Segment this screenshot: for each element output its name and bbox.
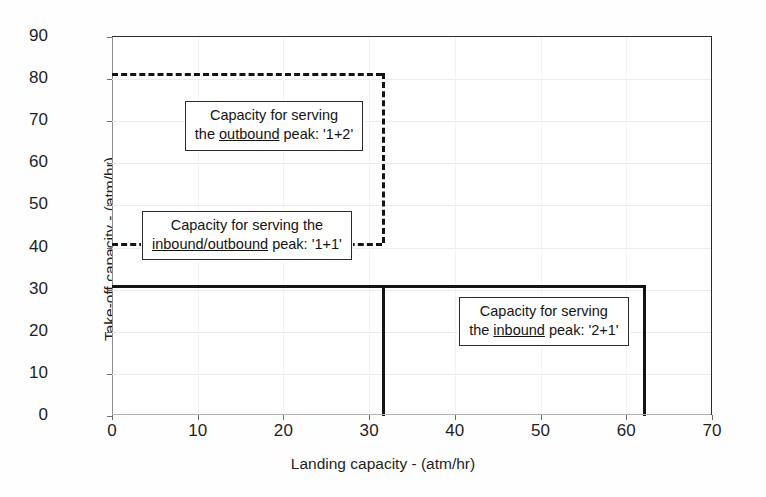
x-tick-mark <box>541 415 542 420</box>
gridline-horizontal <box>112 79 711 80</box>
gridline-horizontal <box>112 290 711 291</box>
annotation-line-1: Capacity for serving <box>469 302 618 321</box>
x-tick-label: 40 <box>425 421 485 441</box>
y-tick-label: 90 <box>0 26 48 46</box>
x-tick-label: 50 <box>511 421 571 441</box>
y-tick-label: 20 <box>0 321 48 341</box>
x-tick-mark <box>112 415 113 420</box>
annotation-inbound: Capacity for servingthe inbound peak: '2… <box>459 297 628 346</box>
y-tick-mark <box>107 332 112 333</box>
x-tick-label: 60 <box>596 421 656 441</box>
x-tick-mark <box>626 415 627 420</box>
x-tick-label: 0 <box>82 421 142 441</box>
gridline-vertical <box>369 37 370 415</box>
gridline-horizontal <box>112 163 711 164</box>
gridline-vertical <box>455 37 456 415</box>
annotation-line-2: the outbound peak: '1+2' <box>195 125 353 144</box>
gridline-horizontal <box>112 205 711 206</box>
y-tick-label: 30 <box>0 279 48 299</box>
x-tick-mark <box>198 415 199 420</box>
capacity-envelope-segment <box>112 285 643 288</box>
capacity-envelope-segment <box>382 285 385 416</box>
y-tick-mark <box>107 248 112 249</box>
y-tick-mark <box>107 121 112 122</box>
annotation-inbound-outbound: Capacity for serving theinbound/outbound… <box>142 211 352 260</box>
x-tick-label: 20 <box>253 421 313 441</box>
gridline-vertical <box>541 37 542 415</box>
x-tick-mark <box>712 415 713 420</box>
annotation-line-1: Capacity for serving the <box>152 216 342 235</box>
y-tick-label: 0 <box>0 405 48 425</box>
annotation-line-1: Capacity for serving <box>195 106 353 125</box>
x-tick-label: 70 <box>682 421 742 441</box>
y-tick-mark <box>107 37 112 38</box>
x-tick-mark <box>369 415 370 420</box>
y-tick-mark <box>107 163 112 164</box>
x-tick-mark <box>455 415 456 420</box>
x-tick-mark <box>283 415 284 420</box>
capacity-envelope-segment <box>112 73 382 76</box>
x-axis-title: Landing capacity - (atm/hr) <box>0 455 766 473</box>
y-tick-label: 40 <box>0 237 48 257</box>
capacity-envelope-segment <box>382 73 385 244</box>
annotation-line-2: the inbound peak: '2+1' <box>469 321 618 340</box>
y-tick-label: 70 <box>0 110 48 130</box>
y-tick-label: 50 <box>0 194 48 214</box>
y-tick-label: 80 <box>0 68 48 88</box>
x-tick-label: 30 <box>339 421 399 441</box>
annotation-keyword: inbound/outbound <box>152 236 268 252</box>
x-tick-label: 10 <box>168 421 228 441</box>
gridline-horizontal <box>112 374 711 375</box>
annotation-outbound: Capacity for servingthe outbound peak: '… <box>185 101 363 150</box>
y-tick-label: 10 <box>0 363 48 383</box>
gridline-vertical <box>626 37 627 415</box>
y-tick-mark <box>107 374 112 375</box>
y-tick-label: 60 <box>0 152 48 172</box>
y-tick-mark <box>107 290 112 291</box>
annotation-line-2: inbound/outbound peak: '1+1' <box>152 235 342 254</box>
capacity-envelope-chart: Take-off capacity - (atm/hr) Landing cap… <box>0 0 766 497</box>
y-tick-mark <box>107 205 112 206</box>
annotation-keyword: outbound <box>219 126 279 142</box>
y-tick-mark <box>107 79 112 80</box>
capacity-envelope-segment <box>643 285 646 416</box>
annotation-keyword: inbound <box>493 322 545 338</box>
